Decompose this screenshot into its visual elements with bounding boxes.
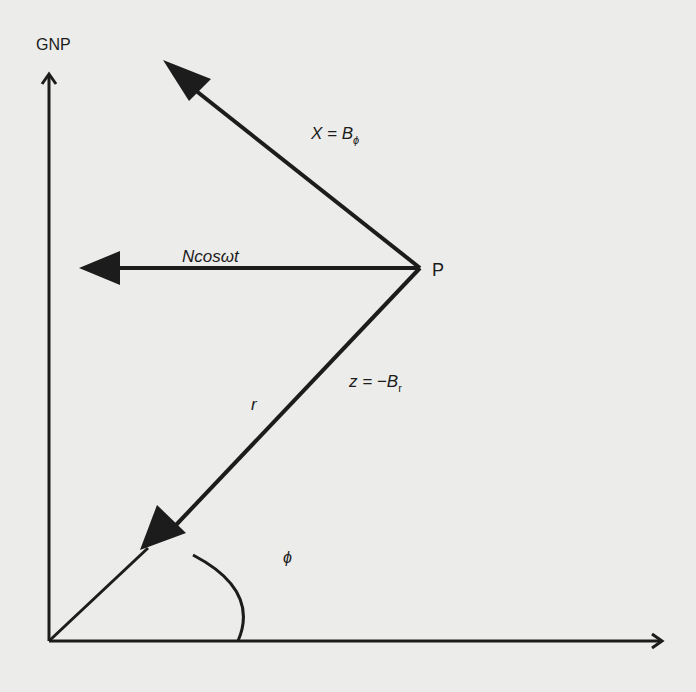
n-component-arrow xyxy=(79,251,420,285)
horizontal-axis xyxy=(49,634,662,648)
x-component-subscript: ϕ xyxy=(353,134,359,146)
point-p-label: P xyxy=(432,261,444,279)
x-component-arrow xyxy=(163,60,420,268)
x-component-lhs: X = B xyxy=(311,124,353,143)
gnp-label: GNP xyxy=(36,37,71,53)
z-component-arrow xyxy=(49,268,420,641)
z-component-subscript: r xyxy=(398,382,402,394)
vertical-axis xyxy=(42,74,56,641)
x-component-label: X = Bϕ xyxy=(311,125,359,142)
z-component-label: z = −Br xyxy=(349,373,402,390)
n-arrowhead-icon xyxy=(79,251,120,285)
z-arrowhead-icon xyxy=(140,505,186,550)
angle-phi-label: ϕ xyxy=(283,550,292,566)
diagram-canvas: GNP P X = Bϕ Ncosωt z = −Br r ϕ xyxy=(0,0,696,692)
radius-label: r xyxy=(251,396,257,413)
diagram-svg xyxy=(0,0,696,692)
angle-arc xyxy=(193,555,243,641)
z-component-lhs: z = −B xyxy=(349,372,398,391)
n-component-label: Ncosωt xyxy=(182,248,239,265)
